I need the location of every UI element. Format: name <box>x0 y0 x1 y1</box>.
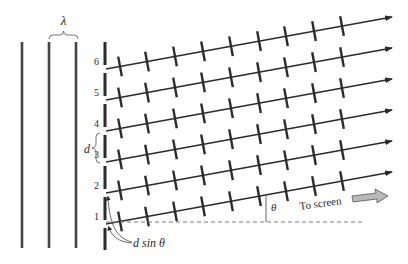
slit-label-5: 5 <box>94 87 99 98</box>
spacing-label: d <box>84 142 91 156</box>
ray-1 <box>106 172 392 224</box>
direction-label: To screen <box>299 194 343 212</box>
ray-5 <box>106 48 392 100</box>
slit-label-4: 4 <box>94 118 99 129</box>
diffracted-rays <box>106 16 392 231</box>
ray-6 <box>106 17 392 69</box>
brace-icon <box>49 31 78 39</box>
slit-label-2: 2 <box>94 180 99 191</box>
incident-wavefronts <box>22 42 76 248</box>
angle-label: θ <box>271 201 277 213</box>
path-difference-label: d sin θ <box>133 236 165 250</box>
wavelength-brace: λ <box>49 13 78 39</box>
slit-labels: 1 2 3 4 5 6 <box>94 56 99 222</box>
direction-arrow-icon <box>352 189 388 203</box>
slit-label-3: 3 <box>94 149 99 160</box>
wavelength-label: λ <box>60 13 67 28</box>
diffraction-grating-diagram: λ 1 2 3 4 5 6 d <box>0 0 408 264</box>
ray-4 <box>106 79 392 131</box>
ray-2 <box>106 141 392 193</box>
slit-label-6: 6 <box>94 56 99 67</box>
angle-indicator: θ <box>266 194 277 222</box>
slit-label-1: 1 <box>94 211 99 222</box>
ray-3 <box>106 110 392 162</box>
